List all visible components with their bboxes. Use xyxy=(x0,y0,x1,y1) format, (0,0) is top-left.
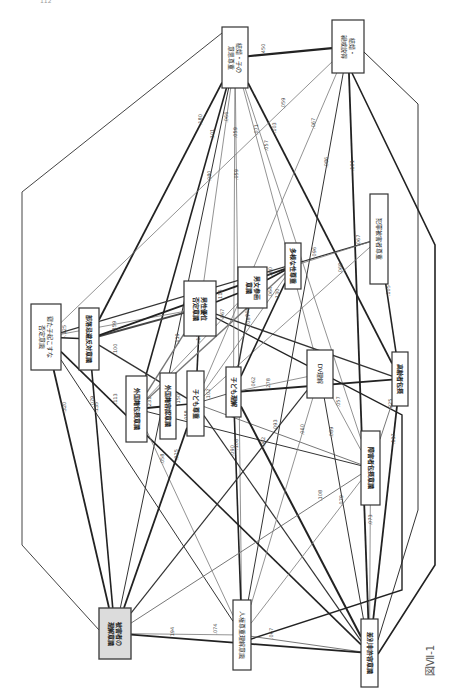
node-gaikoku_youninn: 外国籍容認意識 xyxy=(160,373,176,439)
node-label: 子ども尊重 xyxy=(192,389,200,419)
edge-coefficient-label: .067 xyxy=(268,628,274,639)
path-diagram: .080.180.101.066.450.103.057.071.059.059… xyxy=(0,0,467,697)
node-label: 部落忌避反対意識 xyxy=(85,315,93,363)
node-tayousei: 多様な性尊重 xyxy=(285,243,301,289)
node-label: 犯罪被害者尊重 xyxy=(375,218,383,260)
node-dansei_yui: 男性優位否定意識 xyxy=(184,281,216,336)
edge-coefficient-label: .117 xyxy=(390,433,396,444)
figure-label: 図Ⅶ-1 xyxy=(425,645,436,676)
edge-coefficient-label: .102 xyxy=(205,389,211,400)
edge-coefficient-label: .057 xyxy=(335,396,341,407)
edges xyxy=(54,48,397,652)
edge-coefficient-label: .108 xyxy=(317,490,323,501)
node-koureisha: 高齢者包摂 xyxy=(392,352,408,406)
edge-kodomo_sonchou-sabetsu_hinin xyxy=(204,416,361,641)
node-label: 親戚説得 xyxy=(340,35,348,59)
node-label: 人権尊重理解意識 xyxy=(238,611,246,659)
node-label: 意思尊重 xyxy=(227,46,235,70)
node-kodomo_rikai: 子ども理解 xyxy=(226,367,241,417)
edge-coefficient-label: .115 xyxy=(217,289,223,300)
edge-coefficient-label: .059 xyxy=(280,98,286,109)
edge-dv_rikai-higaisha xyxy=(131,390,307,613)
node-label: 理解意識 xyxy=(107,622,115,646)
edge-coefficient-label: -.125 xyxy=(61,325,67,338)
node-label: 男性優位 xyxy=(200,297,208,321)
node-dv_rikai: DV理解 xyxy=(307,350,333,398)
edge-coefficient-label: .064 xyxy=(267,287,273,298)
node-sabetsu_hinin: 差別非許容意識 xyxy=(361,619,378,687)
edge-coefficient-label: .130 xyxy=(274,289,280,300)
edge-coefficient-label: .086 xyxy=(323,157,329,168)
node-label: 高齢者包摂 xyxy=(396,364,404,394)
edge-kekkon_ikou-sabetsu_hinin xyxy=(349,73,368,619)
edge-coefficient-label: .119 xyxy=(174,333,180,344)
edge-coefficient-label: .074 xyxy=(212,624,218,635)
node-buraku_ishiki: 部落忌避反対意識 xyxy=(79,308,99,370)
edge-coefficient-label: .450 xyxy=(260,44,266,55)
node-kodomo_sonchou: 子ども尊重 xyxy=(187,371,204,436)
edge-shougaisha-jinken xyxy=(251,480,361,623)
node-label: 障害者包摂意識 xyxy=(367,447,375,489)
edge-coefficient-label: .067 xyxy=(219,309,225,320)
node-label: 結婚・ xyxy=(348,38,356,56)
node-label: 男女参画 xyxy=(253,276,261,300)
node-label: 外国籍容認意識 xyxy=(164,384,172,427)
node-higaisha: 被害者の理解意識 xyxy=(99,608,131,659)
node-label: 意識 xyxy=(245,282,253,294)
edge-coefficient-label: .194 xyxy=(169,627,175,638)
node-label: 外国籍包摂意識 xyxy=(133,387,141,430)
edge-coefficient-label: .067 xyxy=(355,235,361,246)
edge-coefficient-label: .113 xyxy=(112,393,118,404)
node-label: 子ども理解 xyxy=(230,377,238,407)
node-label: 差別非許容意識 xyxy=(366,632,374,674)
edge-coefficient-label: .059 xyxy=(232,127,238,138)
page-number: 112 xyxy=(40,0,52,4)
edge-coefficient-label: .093 xyxy=(272,419,278,430)
node-label: 多様な性尊重 xyxy=(289,248,297,284)
node-label: 寝た子起こすな xyxy=(46,316,54,358)
node-hanzai: 犯罪被害者尊重 xyxy=(370,194,388,284)
edge-coefficient-label: .100 xyxy=(112,344,118,355)
edge-coefficient-label: .180 xyxy=(197,114,203,125)
edge-coefficient-label: .089 xyxy=(328,427,334,438)
node-label: DV理解 xyxy=(316,364,324,385)
node-gaikoku_housetsu: 外国籍包摂意識 xyxy=(126,376,147,442)
edge-labels: .080.180.101.066.450.103.057.071.059.059… xyxy=(61,44,396,639)
node-label: 否定意識 xyxy=(192,297,200,321)
edge-coefficient-label: .060 xyxy=(299,424,305,435)
edge-coefficient-label: .066 xyxy=(223,112,229,123)
node-jinken: 人権尊重理解意識 xyxy=(233,600,251,670)
node-label: 結婚・子の xyxy=(235,43,243,73)
edge-coefficient-label: .159 xyxy=(111,321,117,332)
node-kekkon_ikou: 結婚・親戚説得 xyxy=(332,20,364,73)
node-label: 被害者の xyxy=(115,622,123,646)
edge-coefficient-label: .079 xyxy=(338,495,344,506)
outer-right-1-path xyxy=(364,52,418,640)
edge-coefficient-label: .058 xyxy=(159,454,165,465)
edge-coefficient-label: .108 xyxy=(233,439,239,450)
edge-coefficient-label: .080 xyxy=(206,170,212,181)
edge-coefficient-label: .068 xyxy=(244,307,250,318)
edge-jinken-higaisha xyxy=(131,634,233,635)
edge-coefficient-label: .101 xyxy=(209,129,215,140)
edge-coefficient-label: .105 xyxy=(385,285,391,296)
edge-coefficient-label: .325 xyxy=(173,449,179,460)
edge-coefficient-label: .057 xyxy=(263,140,269,151)
edge-coefficient-label: .059 xyxy=(233,169,239,180)
edge-coefficient-label: .180 xyxy=(267,267,273,278)
edge-coefficient-label: .062 xyxy=(260,437,266,448)
edge-coefficient-label: .073 xyxy=(367,514,373,525)
edge-coefficient-label: .103 xyxy=(271,122,277,133)
edge-coefficient-label: .067 xyxy=(310,118,316,129)
node-kekkon_ko: 結婚・子の意思尊重 xyxy=(222,27,248,88)
edge-coefficient-label: .135 xyxy=(93,402,99,413)
node-neta_ko: 寝た子起こすな否定意識 xyxy=(31,304,61,370)
edge-coefficient-label: .062 xyxy=(250,377,256,388)
edge-coefficient-label: .071 xyxy=(253,124,259,135)
node-danjo_sanka: 男女参画意識 xyxy=(238,267,267,308)
node-label: 否定意識 xyxy=(38,325,46,349)
edge-coefficient-label: .278 xyxy=(265,378,271,389)
edge-coefficient-label: .096 xyxy=(311,247,317,258)
edge-coefficient-label: .101 xyxy=(349,160,355,171)
edge-coefficient-label: .068 xyxy=(337,263,343,274)
